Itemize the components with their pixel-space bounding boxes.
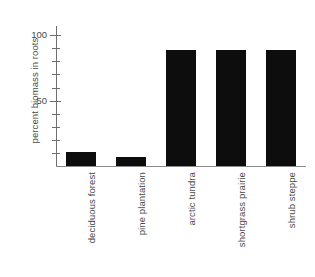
x-axis-label: pine plantation bbox=[136, 172, 147, 235]
y-tick-label: 50 bbox=[7, 96, 47, 106]
bar-chart-figure: percent biomass in roots 10050 deciduous… bbox=[0, 0, 315, 277]
y-tick-label: 100 bbox=[7, 30, 47, 40]
bars-container bbox=[56, 26, 306, 166]
x-axis-line bbox=[56, 166, 306, 167]
bar[interactable] bbox=[216, 50, 246, 166]
x-axis-label: arctic tundra bbox=[186, 172, 197, 226]
x-axis-label: deciduous forest bbox=[86, 172, 97, 243]
bar[interactable] bbox=[266, 50, 296, 166]
x-axis-label: shrub steppe bbox=[286, 172, 297, 228]
bar[interactable] bbox=[116, 157, 146, 166]
bar[interactable] bbox=[166, 50, 196, 166]
x-axis-label: shortgrass prairie bbox=[236, 172, 247, 247]
bar[interactable] bbox=[66, 152, 96, 166]
